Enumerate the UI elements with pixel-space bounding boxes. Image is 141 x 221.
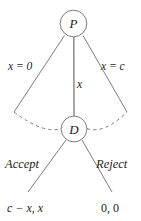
node-proposer-label: P: [60, 17, 87, 30]
information-set-arc-right: [87, 112, 127, 130]
branch-label-right: x = c: [101, 61, 125, 73]
edge-proposer-x-equals-c: [83, 36, 127, 113]
action-label-reject: Reject: [96, 158, 127, 171]
edge-proposer-x-equals-0: [14, 36, 65, 113]
payoff-label-reject: 0, 0: [101, 202, 119, 214]
game-tree-canvas: [0, 0, 141, 221]
action-label-accept: Accept: [5, 158, 39, 171]
information-set-arc: [14, 112, 62, 130]
node-decider-label: D: [61, 123, 88, 136]
branch-label-left: x = 0: [8, 61, 32, 73]
payoff-label-accept: c − x, x: [7, 202, 43, 214]
branch-label-center: x: [77, 79, 82, 91]
